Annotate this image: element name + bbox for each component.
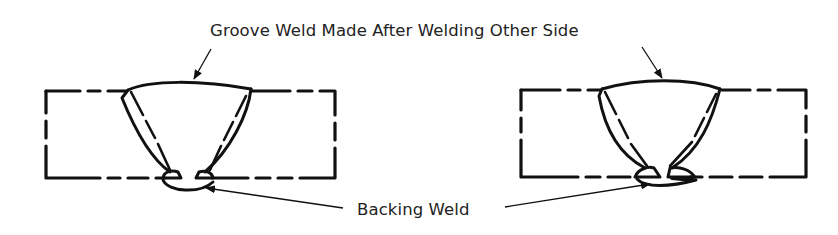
- backing-weld-label: Backing Weld: [357, 200, 470, 219]
- left-plate-outline: [46, 91, 335, 178]
- right-groove-weld-cap: [602, 81, 720, 89]
- left-groove-weld-cap: [128, 82, 251, 90]
- backing-weld-arrow-left: [206, 188, 343, 208]
- leader-arrows: [194, 47, 662, 208]
- right-weld-figure: [521, 81, 806, 186]
- backing-weld-arrow-right: [505, 184, 650, 207]
- groove-weld-arrow-left: [194, 49, 211, 79]
- weld-diagram: Groove Weld Made After Welding Other Sid…: [0, 0, 838, 235]
- right-plate-outline: [521, 90, 806, 177]
- left-backing-weld: [163, 180, 213, 190]
- groove-weld-label: Groove Weld Made After Welding Other Sid…: [210, 21, 579, 40]
- left-weld-figure: [46, 82, 335, 190]
- groove-weld-arrow-right: [642, 47, 662, 78]
